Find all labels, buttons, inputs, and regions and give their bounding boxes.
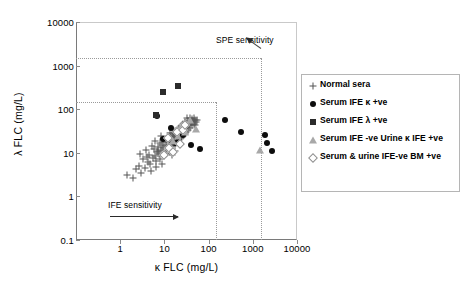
scatter-chart-figure: 1000010001001010.1 110100100010000 κ FLC…: [0, 0, 465, 297]
legend-item: Serum IFE λ +ve: [307, 116, 455, 127]
x-tick-label: 100: [201, 243, 217, 254]
square-icon: [307, 117, 320, 127]
x-tick-mark: [297, 240, 298, 244]
diamond-icon: [307, 153, 320, 163]
y-tick-mark: [76, 196, 80, 197]
x-tick-label: 1000: [242, 243, 264, 254]
x-axis-title: κ FLC (mg/L): [76, 261, 297, 273]
y-tick-mark: [76, 66, 80, 67]
legend-item: Serum & urine IFE-ve BM +ve: [307, 152, 455, 163]
x-tick-mark: [209, 240, 210, 244]
x-tick-mark: [164, 240, 165, 244]
x-tick-mark: [253, 240, 254, 244]
y-tick-mark: [76, 109, 80, 110]
legend-item: Normal sera: [307, 80, 455, 91]
legend-item-label: Serum IFE -ve Urine κ IFE +ve: [320, 134, 443, 144]
y-tick-mark: [76, 22, 80, 23]
legend-item-label: Normal sera: [320, 80, 370, 90]
x-tick-label: 1: [117, 243, 122, 254]
legend-item-label: Serum IFE κ +ve: [320, 98, 387, 108]
legend-item-label: Serum IFE λ +ve: [320, 116, 387, 126]
chart-legend: Normal seraSerum IFE κ +veSerum IFE λ +v…: [301, 74, 460, 192]
legend-item: Serum IFE κ +ve: [307, 98, 455, 109]
annotation-ife-sensitivity: IFE sensitivity: [108, 200, 162, 210]
x-tick-label: 10: [159, 243, 170, 254]
triangle-icon: [307, 135, 320, 145]
x-tick-mark: [120, 240, 121, 244]
x-tick-label: 10000: [284, 243, 311, 254]
y-tick-mark: [76, 240, 80, 241]
legend-item-label: Serum & urine IFE-ve BM +ve: [320, 152, 441, 162]
y-tick-mark: [76, 153, 80, 154]
circle-icon: [307, 99, 320, 109]
ife-sensitivity-arrow: [110, 216, 178, 217]
y-axis-title: λ FLC (mg/L): [12, 49, 24, 199]
legend-item: Serum IFE -ve Urine κ IFE +ve: [307, 134, 455, 145]
plus-icon: [307, 81, 320, 91]
